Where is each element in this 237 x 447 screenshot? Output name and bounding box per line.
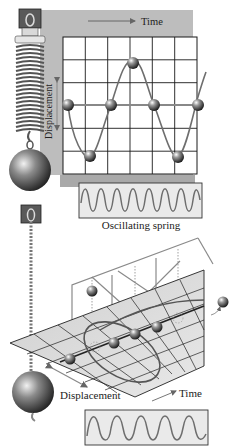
bottom-panel: Displacement Time (10, 205, 229, 445)
time-arrow-icon-bottom (152, 391, 176, 401)
top-panel: Time (9, 9, 206, 231)
oscillating-spring-trace (79, 183, 202, 218)
displacement-label-vertical: Displacement (43, 84, 54, 139)
time-label: Time (141, 16, 163, 27)
pendulum-bob (12, 371, 54, 413)
oscillation-diagram: Time (0, 0, 237, 447)
displacement-label-bottom: Displacement (60, 389, 120, 401)
pendulum-trace (85, 410, 208, 445)
spring-coils (16, 45, 44, 131)
displacement-time-grid (62, 37, 206, 174)
time-label-bottom: Time (179, 387, 202, 399)
spring-mount (19, 9, 41, 28)
caption-oscillating-spring: Oscillating spring (102, 219, 181, 231)
spring-weight (9, 149, 51, 191)
